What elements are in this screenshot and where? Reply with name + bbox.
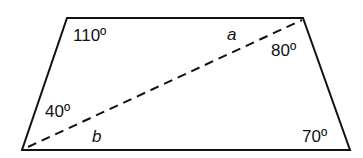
angle-top-right-label: 80º xyxy=(271,42,296,59)
angle-top-left-label: 110º xyxy=(73,27,106,44)
angle-bottom-left-label: 40º xyxy=(45,103,70,120)
angle-bottom-right-label: 70º xyxy=(302,128,327,145)
variable-a-label: a xyxy=(227,26,236,43)
trapezoid-outline xyxy=(22,18,350,150)
dashed-diagonal xyxy=(28,20,302,147)
variable-b-label: b xyxy=(92,128,101,145)
